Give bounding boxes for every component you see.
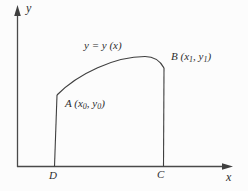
curve-equation-label: y = y (x) (84, 39, 122, 52)
point-c-label: C (157, 168, 164, 181)
point-a-suffix: ) (101, 97, 105, 109)
point-b-mid: , y (193, 50, 203, 62)
point-b-suffix: ) (207, 50, 211, 62)
x-axis-label: x (226, 171, 231, 184)
point-b-text: B (x (171, 50, 189, 62)
ordinate-ad-line (55, 95, 58, 167)
point-a-label: A (x0, y0) (65, 97, 105, 110)
y-axis-label: y (26, 2, 31, 15)
x-axis-arrow-icon (222, 163, 233, 170)
y-axis-arrow-icon (14, 5, 21, 16)
point-d-label: D (49, 169, 57, 182)
point-a-mid: , y (87, 97, 97, 109)
point-a-text: A (x (65, 97, 83, 109)
function-curve (57, 57, 164, 96)
math-figure-curve-diagram: y x y = y (x) B (x1, y1) A (x0, y0) D C (0, 0, 248, 191)
point-b-label: B (x1, y1) (171, 50, 211, 63)
figure-canvas (0, 0, 248, 191)
ordinate-bc-line (164, 68, 165, 167)
